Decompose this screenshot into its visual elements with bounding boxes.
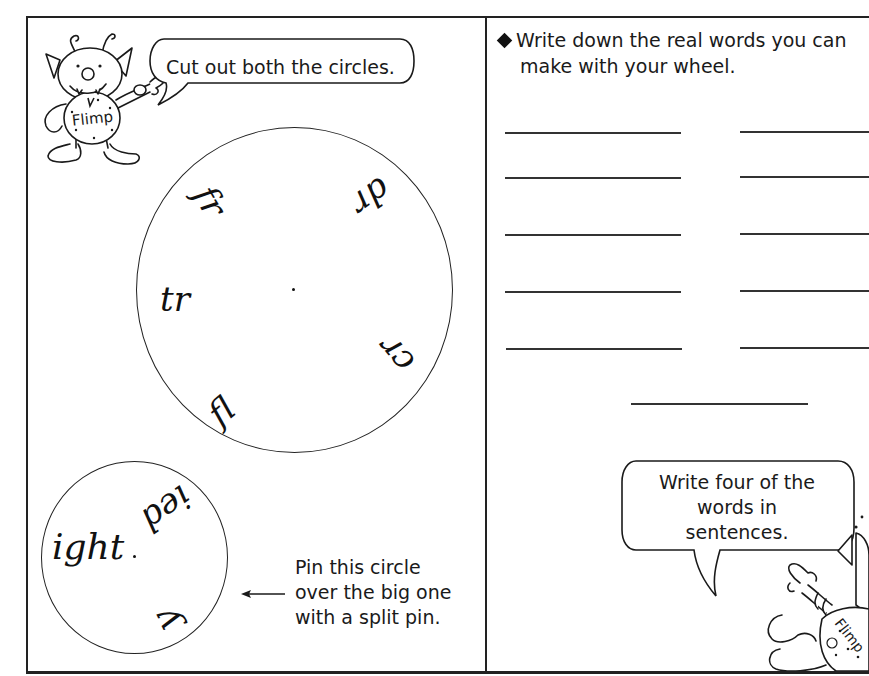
pin-instruction-line-2: over the big one xyxy=(295,580,451,605)
answer-line-right-2[interactable] xyxy=(740,176,869,178)
small-wheel-center-dot xyxy=(133,555,136,558)
frame-left-border xyxy=(26,16,28,674)
pin-instruction-line-3: with a split pin. xyxy=(295,605,451,630)
answer-line-left-2[interactable] xyxy=(505,177,681,179)
instruction-line-2: make with your wheel. xyxy=(497,53,847,79)
answer-line-right-5[interactable] xyxy=(740,347,869,349)
diamond-bullet-icon xyxy=(497,33,513,49)
answer-line-right-3[interactable] xyxy=(740,233,869,235)
frame-bottom-border xyxy=(27,671,869,674)
instruction-line-1: Write down the real words you can xyxy=(516,29,847,51)
answer-line-left-5[interactable] xyxy=(506,348,682,350)
small-wheel-segment-ight: ight xyxy=(52,530,124,564)
arrow-left-icon xyxy=(241,589,286,599)
answer-line-left-1[interactable] xyxy=(505,132,681,134)
big-wheel-center-dot xyxy=(292,288,295,291)
speech-bubble-cut-out: Cut out both the circles. xyxy=(166,55,395,79)
answer-line-left-4[interactable] xyxy=(505,291,681,293)
frame-top-border xyxy=(27,16,869,18)
bubble-line-1: Write four of the xyxy=(622,470,852,495)
flimp-mascot-lying-icon: Flimp xyxy=(752,505,869,671)
panel-divider xyxy=(485,16,487,674)
pin-instruction-line-1: Pin this circle xyxy=(295,555,451,580)
answer-line-right-4[interactable] xyxy=(740,290,869,292)
pin-instruction: Pin this circle over the big one with a … xyxy=(295,555,451,630)
big-wheel-segment-tr: tr xyxy=(160,282,190,316)
answer-line-left-3[interactable] xyxy=(505,234,681,236)
answer-line-right-1[interactable] xyxy=(740,131,869,133)
write-instruction: Write down the real words you can make w… xyxy=(497,27,847,79)
answer-line-center[interactable] xyxy=(631,403,808,405)
flimp-mascot-icon: Flimp xyxy=(32,26,167,166)
